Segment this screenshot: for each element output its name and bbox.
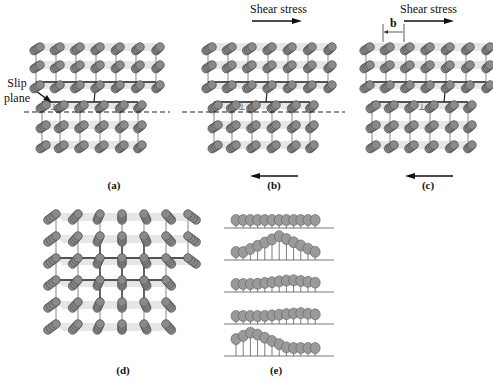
panel-label-b: (b) — [264, 179, 284, 191]
edge-dislocation-lattice-b: ⊥ — [200, 38, 345, 173]
panel-label-d: (d) — [113, 364, 133, 376]
edge-dislocation-lattice-c: ⊥ — [358, 38, 493, 173]
slip-plane-label: Slip plane — [4, 76, 30, 106]
panel-label-a: (a) — [104, 179, 124, 191]
plane-text: plane — [4, 91, 30, 106]
shear-arrow-right-icon — [252, 16, 312, 26]
svg-text:⊥: ⊥ — [50, 102, 58, 112]
slip-text: Slip — [4, 76, 30, 91]
svg-text:⊥: ⊥ — [238, 102, 246, 112]
shear-arrow-right-icon — [404, 16, 464, 26]
shear-stress-label-b: Shear stress — [250, 2, 307, 17]
panel-label-e: (e) — [266, 364, 286, 376]
svg-text:⊥: ⊥ — [418, 102, 426, 112]
caterpillar-analogy-e — [222, 200, 342, 360]
screw-dislocation-lattice-d — [48, 208, 198, 343]
edge-dislocation-lattice-a: ⊥ — [28, 38, 168, 173]
shear-stress-label-c: Shear stress — [400, 2, 457, 17]
panel-label-c: (c) — [418, 179, 438, 191]
